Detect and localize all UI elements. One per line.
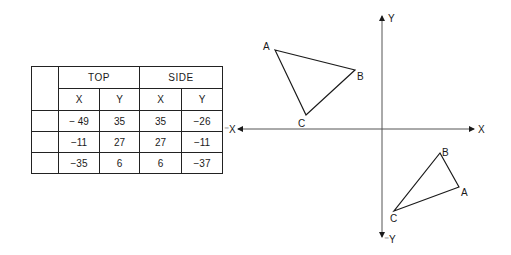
vertex-label-a: A <box>263 41 270 52</box>
neg-y-label: ⁻Y <box>384 234 396 245</box>
neg-x-label: ⁻X <box>224 124 236 135</box>
vertex-label-a: A <box>461 187 468 198</box>
vertex-label-c: C <box>390 213 397 224</box>
vertex-label-b: B <box>357 71 364 82</box>
vertex-label-b: B <box>442 147 449 158</box>
pos-y-label: Y <box>388 13 395 24</box>
vertex-label-c: C <box>298 118 305 129</box>
coordinate-plane: X ⁻X Y ⁻Y A B C A B C <box>0 0 511 255</box>
triangle-side-view <box>394 153 459 211</box>
pos-x-label: X <box>478 124 485 135</box>
triangle-top-view <box>275 50 355 115</box>
